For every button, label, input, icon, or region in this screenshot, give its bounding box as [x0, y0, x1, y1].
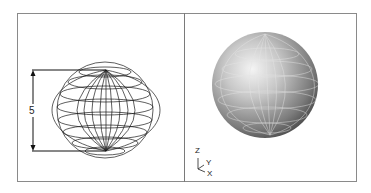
viewport-wireframe[interactable]: 5	[18, 14, 184, 181]
ucs-icon: Z Y X	[195, 147, 217, 177]
wireframe-sphere	[18, 14, 184, 181]
ucs-z-label: Z	[195, 147, 200, 155]
viewport-shaded[interactable]: Z Y X	[185, 14, 356, 181]
ucs-x-label: X	[207, 170, 212, 178]
dimension-label: 5	[29, 104, 35, 117]
ucs-y-label: Y	[206, 159, 211, 167]
